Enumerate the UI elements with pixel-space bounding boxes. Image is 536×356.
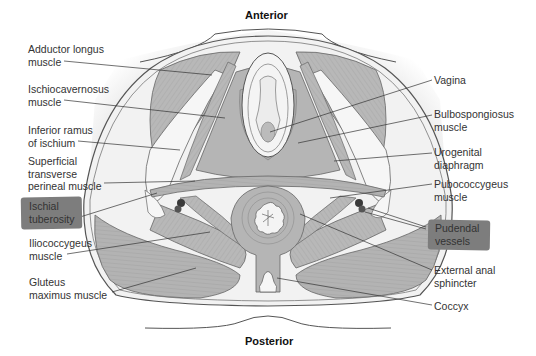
label-vagina: Vagina (434, 74, 466, 87)
label-ischiocavernosus: Ischiocavernosus muscle (28, 83, 109, 108)
orientation-anterior: Anterior (245, 9, 288, 21)
vagina-shape (242, 53, 294, 157)
perineum-anatomy-diagram: Anterior Posterior Adductor longus muscl… (0, 0, 536, 356)
label-pudendal-vessels: Pudendal vessels (435, 222, 479, 247)
label-coccyx: Coccyx (434, 300, 468, 313)
label-inferior-ramus: Inferior ramus of ischium (28, 124, 93, 149)
label-external-anal-sphincter: External anal sphincter (434, 264, 495, 289)
label-adductor-longus: Adductor longus muscle (28, 43, 104, 68)
label-iliococcygeus: Iliococcygeus muscle (29, 237, 92, 262)
label-ischial-tuberosity: Ischial tuberosity (29, 200, 75, 225)
label-gluteus-maximus: Gluteus maximus muscle (29, 276, 107, 301)
label-bulbospongiosus: Bulbospongiosus muscle (434, 108, 514, 133)
label-superficial-transverse: Superficial transverse perineal muscle (28, 155, 102, 193)
orientation-posterior: Posterior (245, 335, 293, 347)
label-pubococcygeus: Pubococcygeus muscle (434, 178, 508, 203)
label-urogenital-diaphragm: Urogenital diaphragm (434, 146, 484, 171)
